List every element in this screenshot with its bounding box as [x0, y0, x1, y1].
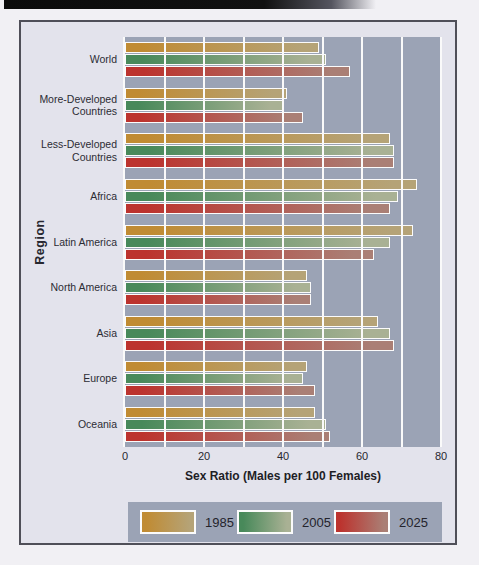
bar-world-2005 [125, 54, 326, 65]
bar-europe-2025 [125, 385, 315, 396]
x-axis-ticks: 020406080 [125, 450, 441, 465]
gridline-80 [440, 37, 442, 447]
bar-latin-america-2025 [125, 249, 374, 260]
bar-world-1985 [125, 42, 319, 53]
gridline-70 [401, 37, 403, 447]
y-axis-title: Region [27, 37, 53, 447]
bar-north-america-1985 [125, 270, 307, 281]
bar-europe-1985 [125, 361, 307, 372]
scan-artifact-strip [4, 0, 376, 9]
legend-label-1985: 1985 [205, 515, 234, 530]
x-tick-60: 60 [356, 450, 368, 462]
legend-swatch-1985 [140, 510, 196, 534]
legend-label-2025: 2025 [399, 515, 428, 530]
gridline-60 [361, 37, 363, 447]
gridline-50 [322, 37, 324, 447]
legend-swatch-2025 [334, 510, 390, 534]
x-tick-80: 80 [435, 450, 447, 462]
x-tick-20: 20 [198, 450, 210, 462]
legend: 198520052025 [128, 502, 442, 542]
chart-body: Region WorldMore-Developed CountriesLess… [21, 37, 455, 447]
x-tick-40: 40 [277, 450, 289, 462]
legend-item-1985: 1985 [140, 510, 234, 534]
bar-oceania-2025 [125, 431, 330, 442]
bar-europe-2005 [125, 373, 303, 384]
x-axis-title: Sex Ratio (Males per 100 Females) [125, 469, 441, 483]
gridline-20 [203, 37, 205, 447]
bar-oceania-1985 [125, 407, 315, 418]
plot-area [123, 37, 441, 447]
legend-item-2005: 2005 [237, 510, 331, 534]
bar-more-developed-countries-2025 [125, 112, 303, 123]
legend-item-2025: 2025 [334, 510, 428, 534]
x-tick-0: 0 [122, 450, 128, 462]
gridline-30 [243, 37, 245, 447]
bar-latin-america-1985 [125, 225, 413, 236]
bar-africa-2005 [125, 191, 398, 202]
legend-swatch-2005 [237, 510, 293, 534]
bar-africa-1985 [125, 179, 417, 190]
gridline-10 [164, 37, 166, 447]
figure-card: Region WorldMore-Developed CountriesLess… [19, 20, 457, 545]
y-axis-title-text: Region [33, 219, 47, 264]
bar-world-2025 [125, 66, 350, 77]
bar-oceania-2005 [125, 419, 326, 430]
gridline-40 [282, 37, 284, 447]
bar-more-developed-countries-1985 [125, 88, 287, 99]
legend-label-2005: 2005 [302, 515, 331, 530]
